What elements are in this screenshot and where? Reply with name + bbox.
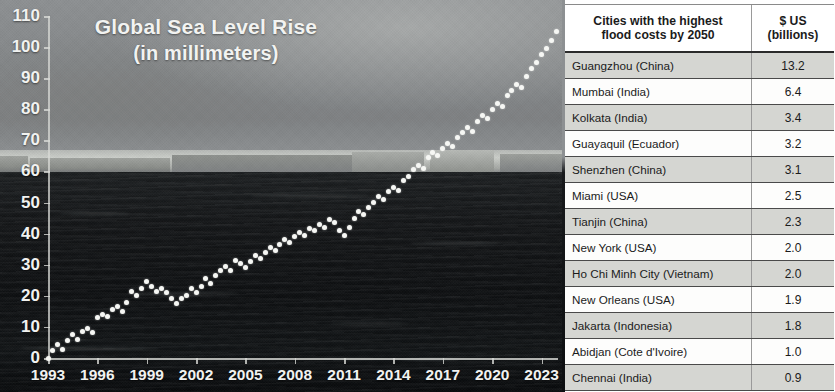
data-point xyxy=(223,264,228,269)
data-point xyxy=(85,326,90,331)
table-row: Guayaquil (Ecuador)3.2 xyxy=(565,131,834,157)
y-tick-label: 30 xyxy=(0,255,44,275)
data-point xyxy=(347,225,352,230)
table-row: Jakarta (Indonesia)1.8 xyxy=(565,313,834,339)
cell-city: Chennai (India) xyxy=(565,365,752,391)
chart-title: Global Sea Level Rise (in millimeters) xyxy=(56,14,356,66)
y-axis-line xyxy=(48,16,50,360)
table-row: Guangzhou (China)13.2 xyxy=(565,52,834,79)
data-point xyxy=(416,163,421,168)
x-tick xyxy=(443,358,445,364)
data-point xyxy=(495,101,500,106)
header-city: Cities with the highest flood costs by 2… xyxy=(565,5,752,53)
x-tick xyxy=(196,358,198,364)
cell-city: Miami (USA) xyxy=(565,183,752,209)
data-point xyxy=(337,228,342,233)
data-point xyxy=(490,107,495,112)
data-point xyxy=(500,104,505,109)
data-point xyxy=(75,337,80,342)
cell-cost: 2.0 xyxy=(752,235,835,261)
cell-city: Mumbai (India) xyxy=(565,79,752,105)
data-point xyxy=(115,304,120,309)
data-point xyxy=(248,259,253,264)
table-row: New York (USA)2.0 xyxy=(565,235,834,261)
table-header: Cities with the highest flood costs by 2… xyxy=(565,5,834,53)
cell-cost: 1.0 xyxy=(752,339,835,365)
cell-cost: 1.8 xyxy=(752,313,835,339)
y-tick-label: 10 xyxy=(0,317,44,337)
data-point xyxy=(554,29,559,34)
cell-cost: 2.5 xyxy=(752,183,835,209)
cell-city: Guangzhou (China) xyxy=(565,52,752,79)
cell-city: Ho Chi Minh City (Vietnam) xyxy=(565,261,752,287)
y-tick-label: 0 xyxy=(0,348,44,368)
data-point xyxy=(194,290,199,295)
cell-city: Jakarta (Indonesia) xyxy=(565,313,752,339)
x-tick-label: 2020 xyxy=(475,366,509,384)
cell-city: New York (USA) xyxy=(565,235,752,261)
data-point xyxy=(421,166,426,171)
cell-cost: 0.9 xyxy=(752,365,835,391)
flood-cost-table-panel: Cities with the highest flood costs by 2… xyxy=(562,0,835,392)
y-tick xyxy=(44,203,50,205)
y-tick xyxy=(44,16,50,18)
y-tick-label: 80 xyxy=(0,99,44,119)
data-point xyxy=(258,256,263,261)
data-point xyxy=(342,233,347,238)
x-tick xyxy=(147,358,149,364)
infographic-root: Global Sea Level Rise (in millimeters) 0… xyxy=(0,0,835,392)
y-tick xyxy=(44,265,50,267)
cell-city: Shenzhen (China) xyxy=(565,157,752,183)
cell-city: Tianjin (China) xyxy=(565,209,752,235)
header-cost: $ US (billions) xyxy=(752,5,835,53)
y-tick-label: 60 xyxy=(0,161,44,181)
data-point xyxy=(470,129,475,134)
table-body: Guangzhou (China)13.2Mumbai (India)6.4Ko… xyxy=(565,52,834,391)
data-point xyxy=(273,248,278,253)
data-point xyxy=(332,220,337,225)
cell-cost: 3.2 xyxy=(752,131,835,157)
y-tick-label: 100 xyxy=(0,37,44,57)
y-tick xyxy=(44,296,50,298)
data-point xyxy=(174,301,179,306)
cell-cost: 3.1 xyxy=(752,157,835,183)
data-point xyxy=(228,268,233,273)
table-row: Chennai (India)0.9 xyxy=(565,365,834,391)
data-point xyxy=(55,342,60,347)
data-point xyxy=(322,225,327,230)
header-cost-line1: $ US xyxy=(752,14,834,28)
y-tick-label: 70 xyxy=(0,130,44,150)
x-tick xyxy=(492,358,494,364)
y-tick-label: 40 xyxy=(0,224,44,244)
x-axis-line xyxy=(48,358,558,360)
cell-cost: 3.4 xyxy=(752,105,835,131)
cell-cost: 1.9 xyxy=(752,287,835,313)
cell-cost: 13.2 xyxy=(752,52,835,79)
data-point xyxy=(95,315,100,320)
table-row: Kolkata (India)3.4 xyxy=(565,105,834,131)
data-point xyxy=(312,228,317,233)
table-row: Mumbai (India)6.4 xyxy=(565,79,834,105)
x-tick xyxy=(542,358,544,364)
x-tick xyxy=(393,358,395,364)
table-header-row: Cities with the highest flood costs by 2… xyxy=(565,5,834,53)
x-tick-label: 2017 xyxy=(426,366,460,384)
data-point xyxy=(396,188,401,193)
table-row: Miami (USA)2.5 xyxy=(565,183,834,209)
cell-city: Kolkata (India) xyxy=(565,105,752,131)
cell-cost: 2.3 xyxy=(752,209,835,235)
x-tick-label: 1999 xyxy=(129,366,163,384)
data-point xyxy=(485,116,490,121)
chart-title-main: Global Sea Level Rise xyxy=(56,14,356,40)
table-row: Shenzhen (China)3.1 xyxy=(565,157,834,183)
y-tick xyxy=(44,109,50,111)
table-row: Abidjan (Cote d'Ivoire)1.0 xyxy=(565,339,834,365)
x-tick xyxy=(245,358,247,364)
data-point xyxy=(189,286,194,291)
cell-cost: 2.0 xyxy=(752,261,835,287)
x-tick-label: 2011 xyxy=(327,366,361,384)
data-point xyxy=(505,93,510,98)
data-point xyxy=(110,307,115,312)
x-tick xyxy=(97,358,99,364)
data-point xyxy=(455,135,460,140)
